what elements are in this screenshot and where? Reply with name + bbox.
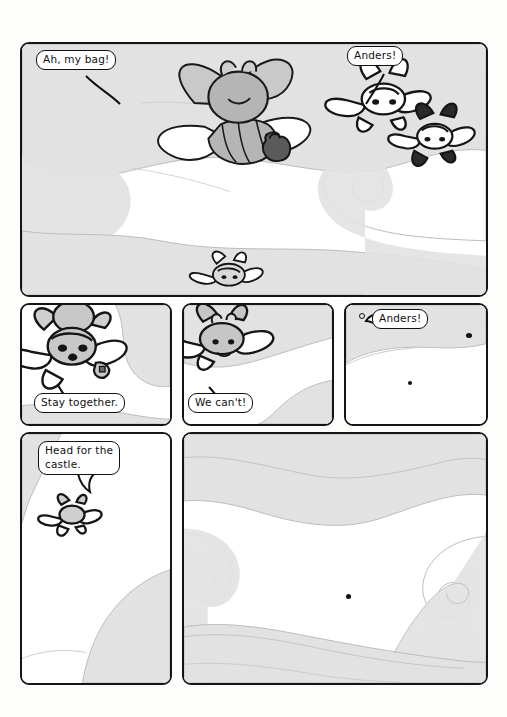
speech-balloon-we-cant: We can't! xyxy=(188,393,253,413)
comic-panel-5: Head for the castle. xyxy=(20,432,172,685)
distant-speck-2 xyxy=(466,333,472,338)
speech-balloon-head-for-the-castle: Head for the castle. xyxy=(38,441,120,475)
comic-panel-1: Ah, my bag! Anders! xyxy=(20,42,488,297)
comic-panel-4: Anders! xyxy=(344,303,488,426)
speech-balloon-anders-2: Anders! xyxy=(372,309,428,329)
balloon-tail-ah-my-bag xyxy=(84,74,124,108)
distant-speck-lone xyxy=(346,594,351,599)
comic-panel-3: We can't! xyxy=(182,303,334,426)
speech-balloon-ah-my-bag: Ah, my bag! xyxy=(36,50,116,70)
balloon-tail-anders-1 xyxy=(362,72,396,108)
comic-panel-6 xyxy=(182,432,488,685)
speech-balloon-stay-together: Stay together. xyxy=(34,393,125,413)
comic-panel-2: Stay together. xyxy=(20,303,172,426)
panel-6-artwork xyxy=(184,434,486,683)
comic-page: Ah, my bag! Anders! xyxy=(0,0,507,717)
distant-speck-3 xyxy=(408,381,412,385)
speech-balloon-anders-1: Anders! xyxy=(347,46,403,66)
balloon-tail-head-for-the-castle xyxy=(74,472,100,494)
